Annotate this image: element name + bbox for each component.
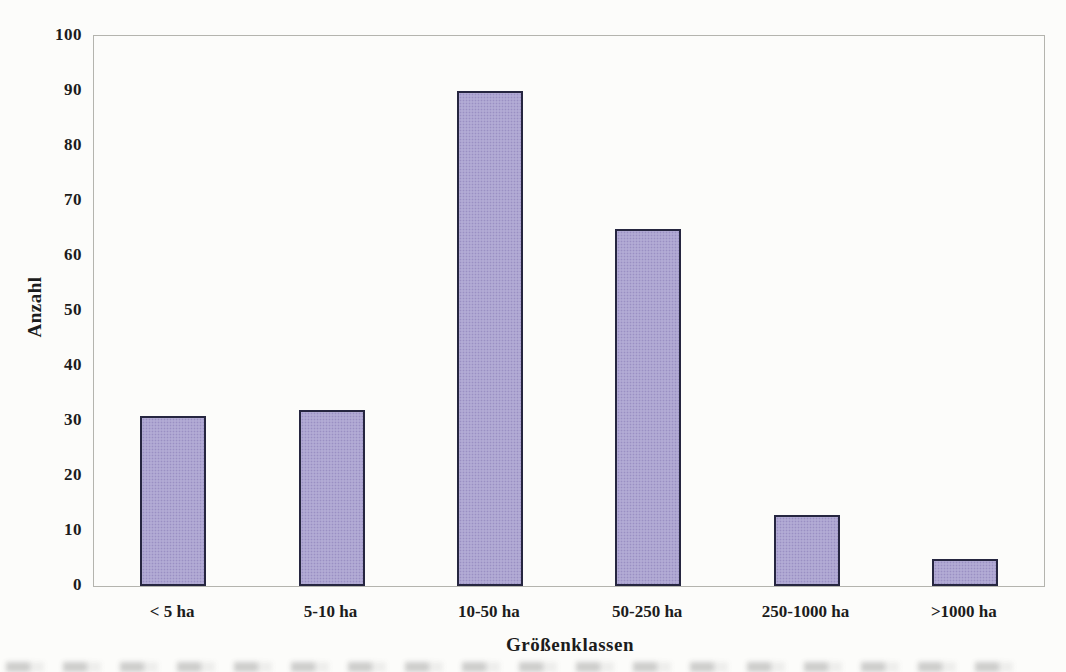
scanned-chart-page: Anzahl 0102030405060708090100 < 5 ha5-10… bbox=[0, 0, 1066, 672]
bar-4 bbox=[615, 229, 681, 587]
y-tick-label-60: 60 bbox=[18, 245, 82, 265]
y-tick-label-20: 20 bbox=[18, 465, 82, 485]
x-tick-label-5: 250-1000 ha bbox=[731, 601, 881, 623]
y-tick-label-40: 40 bbox=[18, 355, 82, 375]
y-tick-label-90: 90 bbox=[18, 80, 82, 100]
plot-area bbox=[93, 35, 1045, 587]
x-tick-label-1: < 5 ha bbox=[97, 601, 247, 623]
cropped-text-scan-artifact bbox=[6, 662, 1026, 672]
bar-3 bbox=[457, 91, 523, 586]
bar-1 bbox=[140, 416, 206, 587]
y-tick-label-10: 10 bbox=[18, 520, 82, 540]
x-tick-label-2: 5-10 ha bbox=[256, 601, 406, 623]
x-axis-title: Größenklassen bbox=[506, 634, 634, 656]
x-tick-label-6: >1000 ha bbox=[889, 601, 1039, 623]
x-tick-label-4: 50-250 ha bbox=[572, 601, 722, 623]
bar-2 bbox=[299, 410, 365, 586]
y-tick-label-70: 70 bbox=[18, 190, 82, 210]
y-tick-label-0: 0 bbox=[18, 575, 82, 595]
y-tick-label-30: 30 bbox=[18, 410, 82, 430]
bar-5 bbox=[774, 515, 840, 587]
y-tick-label-50: 50 bbox=[18, 300, 82, 320]
x-tick-label-3: 10-50 ha bbox=[414, 601, 564, 623]
y-tick-label-80: 80 bbox=[18, 135, 82, 155]
bar-6 bbox=[932, 559, 998, 587]
y-tick-label-100: 100 bbox=[18, 25, 82, 45]
